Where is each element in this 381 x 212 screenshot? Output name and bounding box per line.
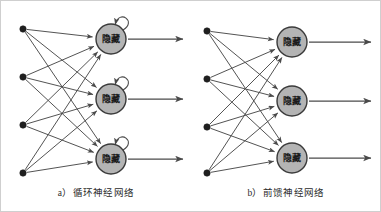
edge-in2-to-h3 [26, 80, 98, 147]
neural-network-figure: 隐藏隐藏隐藏 a）循环神经网络 隐藏隐藏隐藏 b）前馈神经网络 [0, 0, 381, 212]
output-arrow-group [128, 39, 183, 159]
edge-group [25, 29, 101, 172]
edge-in1-to-h2 [210, 33, 278, 89]
input-node-group [204, 28, 210, 176]
input-node-1 [20, 26, 26, 32]
hidden-node-label-h1: 隐藏 [102, 33, 120, 44]
hidden-node-group: 隐藏隐藏隐藏 [96, 24, 126, 174]
edge-in2-to-h1 [26, 46, 94, 75]
edge-in4-to-h3 [211, 161, 274, 172]
input-node-group [20, 26, 26, 176]
edge-in2-to-h2 [27, 78, 93, 95]
hidden-node-label-h2: 隐藏 [102, 93, 120, 104]
edge-group [209, 31, 282, 172]
edge-in1-to-h1 [211, 31, 274, 39]
edge-in4-to-h2 [26, 111, 97, 171]
hidden-node-label-h3: 隐藏 [283, 152, 301, 163]
output-arrow-group [309, 42, 371, 158]
edge-in2-to-h1 [210, 49, 275, 77]
hidden-node-group: 隐藏隐藏隐藏 [277, 27, 307, 173]
input-node-1 [204, 28, 210, 34]
panel-feedforward-neural-network: 隐藏隐藏隐藏 b）前馈神经网络 [191, 1, 381, 212]
hidden-node-label-h1: 隐藏 [283, 36, 301, 47]
edge-in1-to-h1 [27, 29, 93, 36]
edge-in3-to-h3 [211, 128, 275, 151]
input-node-3 [204, 124, 210, 130]
edge-in2-to-h2 [211, 80, 274, 96]
panel-recurrent-neural-network: 隐藏隐藏隐藏 a）循环神经网络 [1, 1, 191, 212]
edge-in3-to-h1 [26, 52, 98, 122]
edge-in3-to-h3 [27, 126, 94, 152]
edge-in3-to-h2 [27, 104, 94, 124]
hidden-node-label-h2: 隐藏 [283, 95, 301, 106]
caption-feedforward-neural-network: b）前馈神经网络 [191, 185, 381, 199]
input-node-4 [20, 170, 26, 176]
ffn-diagram: 隐藏隐藏隐藏 [191, 1, 381, 186]
edge-in1-to-h2 [26, 31, 97, 87]
edge-in3-to-h2 [211, 106, 275, 125]
rnn-diagram: 隐藏隐藏隐藏 [1, 1, 191, 186]
hidden-node-label-h3: 隐藏 [102, 153, 120, 164]
edge-in4-to-h3 [27, 162, 93, 172]
caption-recurrent-neural-network: a）循环神经网络 [1, 185, 191, 199]
input-node-4 [204, 170, 210, 176]
input-node-2 [20, 74, 26, 80]
input-node-3 [20, 122, 26, 128]
input-node-2 [204, 76, 210, 82]
